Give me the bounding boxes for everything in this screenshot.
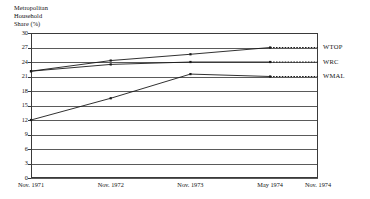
series-layer xyxy=(0,0,370,199)
data-point-marker xyxy=(110,63,112,65)
series-label-wtop: WTOP xyxy=(323,44,343,51)
data-point-marker xyxy=(110,59,112,61)
data-point-marker xyxy=(269,61,271,63)
data-point-marker xyxy=(189,73,191,75)
data-point-marker xyxy=(30,119,32,121)
data-point-marker xyxy=(189,61,191,63)
series-line-solid xyxy=(31,74,270,120)
data-point-marker xyxy=(269,75,271,77)
data-point-marker xyxy=(269,46,271,48)
series-label-wmal: WMAL xyxy=(323,73,345,80)
line-chart: Metropolitan Household Share (%) 3027242… xyxy=(0,0,370,199)
series-label-wrc: WRC xyxy=(323,59,339,66)
data-point-marker xyxy=(189,53,191,55)
series-line-solid xyxy=(31,48,270,72)
data-point-marker xyxy=(30,70,32,72)
data-point-marker xyxy=(110,97,112,99)
